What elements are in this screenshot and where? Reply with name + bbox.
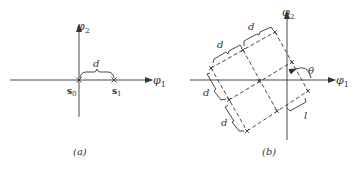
brace-left-1	[207, 73, 226, 100]
panel-a: φ2 φ1 d s0 s1 (a)	[10, 20, 166, 157]
phi2-label-b: φ2	[282, 6, 295, 21]
caption-a: (a)	[73, 146, 87, 157]
phi2-label: φ2	[77, 20, 90, 35]
panel-b: φ2 φ1	[190, 6, 349, 157]
phi1-label-b: φ1	[336, 74, 349, 89]
distance-brace	[80, 69, 114, 78]
s1-label: s1	[112, 86, 122, 98]
distance-label-top-right: d	[248, 21, 254, 32]
distance-label-left-upper: d	[203, 87, 209, 98]
distance-label: d	[93, 58, 99, 69]
phi1-label: φ1	[153, 74, 166, 89]
distance-label-top-left: d	[217, 39, 223, 50]
caption-b: (b)	[262, 146, 276, 157]
theta-label: θ	[308, 65, 314, 76]
s0-label: s0	[67, 86, 77, 98]
offset-label: l	[304, 110, 307, 121]
distance-label-left-lower: d	[221, 117, 227, 128]
figure: φ2 φ1 d s0 s1 (a) φ2 φ1	[0, 0, 360, 169]
